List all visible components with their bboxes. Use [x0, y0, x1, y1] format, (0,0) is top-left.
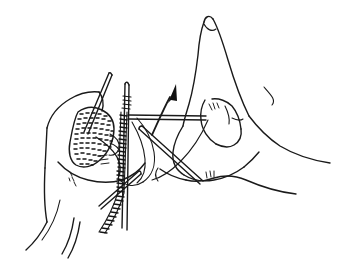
knitting-illustration: Knitting technique illustration Two hand…	[0, 0, 360, 276]
yarn-tension-line-lower	[128, 119, 206, 120]
background	[0, 0, 360, 276]
illustration-canvas	[0, 0, 360, 276]
yarn-tension-line-upper	[128, 115, 206, 116]
